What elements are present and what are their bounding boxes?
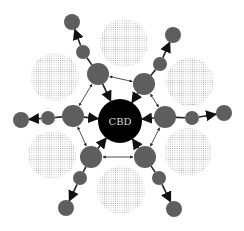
dotted-zone (164, 128, 212, 176)
network-node (13, 112, 29, 128)
dotted-zone (166, 58, 214, 106)
dotted-zone (31, 53, 79, 101)
ring-link (79, 84, 92, 105)
radial-link (83, 167, 86, 172)
ring-link (78, 127, 86, 146)
network-node (165, 27, 181, 43)
ring-link (150, 128, 159, 147)
ring-link (110, 77, 133, 82)
arrow-outward (69, 184, 77, 200)
network-node (73, 171, 87, 185)
network-node (58, 200, 74, 216)
arrow-outward (199, 114, 216, 117)
network-node (154, 106, 176, 128)
network-node (153, 57, 167, 71)
network-node (76, 45, 90, 59)
dotted-zone (97, 166, 145, 214)
arrow-outward (162, 184, 170, 201)
network-node (133, 73, 155, 95)
network-node (87, 63, 109, 85)
arrow-outward (75, 30, 81, 46)
arrow-to-cbd (98, 138, 106, 148)
arrow-to-cbd (84, 117, 98, 119)
radial-link (151, 166, 155, 172)
network-node (62, 105, 84, 127)
dotted-zone (28, 131, 76, 179)
arrow-to-cbd (132, 93, 138, 102)
arrow-to-cbd (142, 118, 154, 119)
network-node (152, 171, 166, 185)
ring-link (150, 94, 158, 107)
network-node (64, 14, 80, 30)
cbd-network-diagram: CBD (0, 0, 244, 231)
network-node (134, 146, 156, 168)
cbd-label: CBD (108, 116, 131, 127)
network-node (80, 146, 102, 168)
arrow-outward (29, 119, 41, 120)
arrow-outward (163, 42, 170, 57)
cbd-node: CBD (98, 99, 142, 143)
radial-link (55, 117, 62, 118)
arrow-to-cbd (103, 84, 111, 101)
dotted-zone (100, 19, 148, 67)
network-node (166, 201, 182, 217)
arrow-to-cbd (133, 139, 139, 148)
network-node (185, 111, 199, 125)
network-node (41, 111, 55, 125)
network-node (216, 105, 232, 121)
radial-link (87, 58, 92, 65)
radial-link (151, 69, 156, 75)
